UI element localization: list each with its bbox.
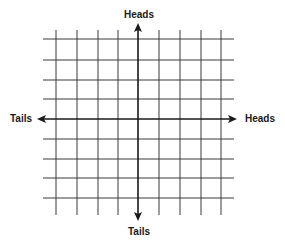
axis-label-right-heads: Heads bbox=[245, 114, 275, 124]
axis-label-top-heads: Heads bbox=[124, 10, 154, 20]
coordinate-grid bbox=[0, 0, 285, 245]
axis-label-left-tails: Tails bbox=[10, 114, 32, 124]
axes bbox=[37, 23, 237, 221]
axis-label-bottom-tails: Tails bbox=[128, 227, 150, 237]
